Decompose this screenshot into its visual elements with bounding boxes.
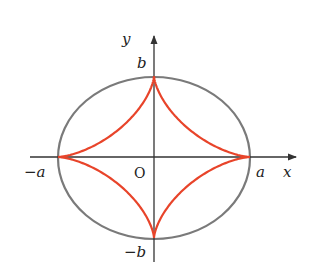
origin-label: O <box>134 165 145 181</box>
label-neg-a: −a <box>24 163 46 181</box>
diagram: y b −a O a x −b <box>0 0 316 276</box>
label-neg-b: −b <box>124 243 146 261</box>
x-axis-label: x <box>283 163 292 181</box>
label-b: b <box>137 54 147 72</box>
label-a: a <box>256 163 265 181</box>
y-axis-label: y <box>121 30 131 48</box>
